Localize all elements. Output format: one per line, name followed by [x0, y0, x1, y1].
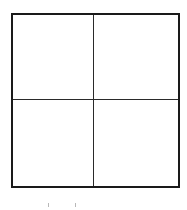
bottom-tick-mark — [48, 203, 49, 207]
vertical-divider — [93, 15, 94, 186]
cell-top-left — [13, 15, 93, 99]
cell-bottom-left — [13, 100, 93, 186]
horizontal-divider — [13, 99, 178, 100]
quadrant-grid — [11, 13, 180, 188]
bottom-tick-mark — [75, 203, 76, 207]
cell-top-right — [94, 15, 178, 99]
cell-bottom-right — [94, 100, 178, 186]
